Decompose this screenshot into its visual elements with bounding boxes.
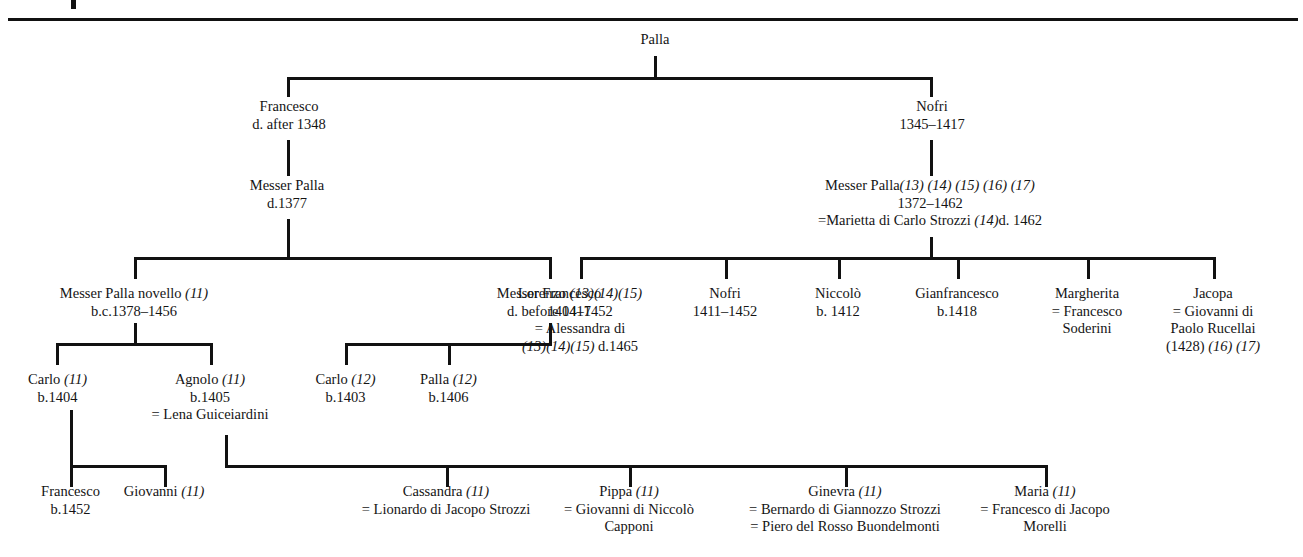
- nofri-1-name: Nofri: [842, 98, 1022, 116]
- connector-palla1406-drop: [448, 343, 451, 365]
- lorenzo-name: Lorenzo: [518, 285, 570, 301]
- francesco-1-dates: d. after 1348: [199, 116, 379, 134]
- cassandra-refs: (11): [466, 483, 489, 499]
- messer-palla-1377-dates: d.1377: [197, 195, 377, 213]
- palla-root-name: Palla: [565, 31, 745, 49]
- connector-carlo1404-drop: [56, 343, 59, 365]
- maria-spouse-2: Morelli: [935, 518, 1155, 536]
- node-francesco-1: Francesco d. after 1348: [199, 98, 379, 133]
- connector-palla-stem: [654, 56, 657, 79]
- connector-nofri2-drop: [725, 257, 728, 279]
- carlo-1403-refs: (12): [351, 371, 375, 387]
- connector-daughters-bar: [225, 465, 1048, 468]
- connector-agnolo-drop: [210, 343, 213, 365]
- agnolo-refs: (11): [222, 371, 245, 387]
- lorenzo-spouse-line: (13)(14)(15) d.1465: [480, 338, 680, 356]
- palla-1406-name: Palla: [420, 371, 453, 387]
- maria-name: Maria: [1014, 483, 1052, 499]
- giovanni-refs: (11): [181, 483, 204, 499]
- pippa-refs: (11): [636, 483, 659, 499]
- messer-palla-1372-spouse-refs: (14): [974, 212, 998, 228]
- lorenzo-dates: 1404–1452: [480, 303, 680, 321]
- connector-gen3-left-bar: [134, 257, 552, 260]
- jacopa-spouse-2: Paolo Rucellai: [1133, 320, 1293, 338]
- palla-1406-refs: (12): [453, 371, 477, 387]
- node-palla-1406: Palla (12) b.1406: [391, 371, 506, 406]
- messer-palla-1372-spouse-dates: d. 1462: [999, 212, 1043, 228]
- node-carlo-1403: Carlo (12) b.1403: [288, 371, 403, 406]
- pippa-name: Pippa: [599, 483, 636, 499]
- connector-pallanovello-drop: [134, 257, 137, 279]
- connector-lorenzo-drop: [580, 257, 583, 279]
- connector-francesco1-drop: [287, 77, 290, 97]
- jacopa-year-line: (1428) (16) (17): [1133, 338, 1293, 356]
- family-tree-diagram: Palla Francesco d. after 1348 Nofri 1345…: [0, 0, 1303, 557]
- agnolo-name-line: Agnolo (11): [110, 371, 310, 389]
- agnolo-dates: b.1405: [110, 389, 310, 407]
- carlo-1403-name: Carlo: [315, 371, 351, 387]
- lorenzo-spouse-dates: d.1465: [594, 338, 638, 354]
- palla-novello-refs: (11): [185, 285, 208, 301]
- connector-carlo1404-stem: [70, 410, 73, 467]
- connector-gen1-bar: [287, 77, 933, 80]
- palla-novello-dates: b.c.1378–1456: [24, 303, 244, 321]
- lorenzo-spouse: = Alessandra di: [480, 320, 680, 338]
- messer-palla-1372-refs: (13) (14) (15) (16) (17): [900, 177, 1035, 193]
- agnolo-name: Agnolo: [175, 371, 222, 387]
- lorenzo-name-line: Lorenzo (13)(14)(15): [480, 285, 680, 303]
- header-rule: [8, 18, 1298, 21]
- agnolo-spouse: = Lena Guiceiardini: [110, 406, 310, 424]
- connector-messerfrancesco-stem: [549, 323, 552, 345]
- connector-gen4-left-bar: [56, 343, 213, 346]
- jacopa-refs: (16) (17): [1208, 338, 1260, 354]
- ginevra-name: Ginevra: [808, 483, 858, 499]
- connector-niccolo-drop: [838, 257, 841, 279]
- node-palla-root: Palla: [565, 31, 745, 49]
- carlo-1404-dates: b.1404: [0, 389, 115, 407]
- palla-1406-name-line: Palla (12): [391, 371, 506, 389]
- palla-novello-name-line: Messer Palla novello (11): [24, 285, 244, 303]
- carlo-1403-dates: b.1403: [288, 389, 403, 407]
- node-messer-palla-1377: Messer Palla d.1377: [197, 177, 377, 212]
- node-messer-palla-1372: Messer Palla(13) (14) (15) (16) (17) 137…: [680, 177, 1180, 230]
- francesco-1-name: Francesco: [199, 98, 379, 116]
- node-giovanni: Giovanni (11): [104, 483, 224, 501]
- jacopa-name: Jacopa: [1133, 285, 1293, 303]
- francesco-1452-dates: b.1452: [13, 501, 128, 519]
- lorenzo-refs: (13)(14)(15): [570, 285, 642, 301]
- connector-margherita-drop: [1087, 257, 1090, 279]
- connector-gianfrancesco-drop: [957, 257, 960, 279]
- messer-palla-1372-dates: 1372–1462: [680, 195, 1180, 213]
- messer-palla-1372-line-name: Messer Palla(13) (14) (15) (16) (17): [680, 177, 1180, 195]
- node-agnolo: Agnolo (11) b.1405 = Lena Guiceiardini: [110, 371, 310, 424]
- node-maria: Maria (11) = Francesco di Jacopo Morelli: [935, 483, 1155, 536]
- node-nofri-1: Nofri 1345–1417: [842, 98, 1022, 133]
- maria-name-line: Maria (11): [935, 483, 1155, 501]
- connector-francesco1-to-messerpalla: [287, 140, 290, 176]
- connector-carlo1403-drop: [345, 343, 348, 365]
- connector-gen5-left-bar: [70, 465, 167, 468]
- connector-gen3-right-bar: [580, 257, 1216, 260]
- nofri-1-dates: 1345–1417: [842, 116, 1022, 134]
- carlo-1404-name-line: Carlo (11): [0, 371, 115, 389]
- giovanni-name-line: Giovanni (11): [104, 483, 224, 501]
- carlo-1404-refs: (11): [64, 371, 87, 387]
- jacopa-spouse-1: = Giovanni di: [1133, 303, 1293, 321]
- connector-messerfrancesco-drop: [549, 257, 552, 279]
- maria-spouse-1: = Francesco di Jacopo: [935, 501, 1155, 519]
- connector-messerpalla1377-stem: [287, 219, 290, 259]
- ginevra-refs: (11): [859, 483, 882, 499]
- cassandra-name: Cassandra: [403, 483, 466, 499]
- messer-palla-1372-spouse-line: =Marietta di Carlo Strozzi (14)d. 1462: [680, 212, 1180, 230]
- carlo-1404-name: Carlo: [28, 371, 64, 387]
- connector-jacopa-drop: [1213, 257, 1216, 279]
- messer-palla-1372-name: Messer Palla: [825, 177, 900, 193]
- connector-nofri1-to-messerpalla: [930, 140, 933, 176]
- giovanni-name: Giovanni: [124, 483, 182, 499]
- connector-agnolo-stem: [225, 435, 228, 468]
- jacopa-year: (1428): [1166, 338, 1208, 354]
- carlo-1403-name-line: Carlo (12): [288, 371, 403, 389]
- palla-novello-name: Messer Palla novello: [60, 285, 185, 301]
- node-jacopa: Jacopa = Giovanni di Paolo Rucellai (142…: [1133, 285, 1293, 355]
- maria-refs: (11): [1053, 483, 1076, 499]
